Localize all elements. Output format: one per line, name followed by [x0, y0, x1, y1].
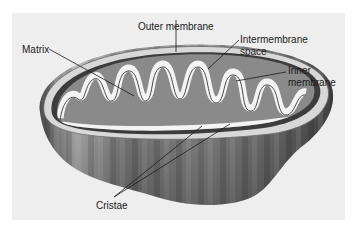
inner-membrane-label-line2: membrane	[288, 77, 336, 88]
intermembrane-space-label-line2: space	[240, 46, 267, 57]
matrix-label: Matrix	[22, 44, 49, 55]
inner-membrane-label-line1: Inner	[288, 65, 311, 76]
outer-membrane-label: Outer membrane	[138, 21, 214, 32]
intermembrane-space-label-line1: Intermembrane	[240, 34, 308, 45]
cristae-label: Cristae	[96, 200, 128, 211]
